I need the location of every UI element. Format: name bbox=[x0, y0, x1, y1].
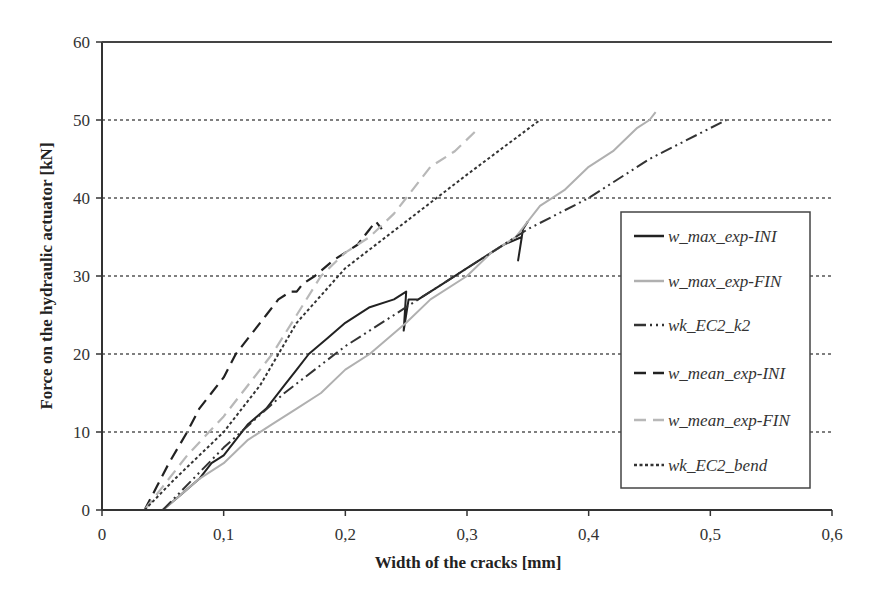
y-tick-label: 10 bbox=[73, 423, 90, 442]
legend-label: wk_EC2_k2 bbox=[668, 316, 751, 335]
y-axis-title: Force on the hydraulic actuator [kN] bbox=[37, 142, 56, 409]
chart-canvas: 010203040506000,10,20,30,40,50,6 Width o… bbox=[0, 0, 882, 602]
y-tick-label: 20 bbox=[73, 345, 90, 364]
x-axis-title: Width of the cracks [mm] bbox=[375, 553, 562, 572]
series-line bbox=[163, 112, 656, 510]
y-tick-label: 50 bbox=[73, 111, 90, 130]
legend-label: w_mean_exp-FIN bbox=[668, 411, 791, 430]
x-tick-label: 0,3 bbox=[456, 525, 477, 544]
legend-label: w_mean_exp-INI bbox=[668, 364, 786, 383]
series-line bbox=[145, 221, 382, 510]
x-tick-label: 0 bbox=[98, 525, 107, 544]
legend-label: w_max_exp-FIN bbox=[668, 272, 783, 291]
y-tick-label: 40 bbox=[73, 189, 90, 208]
series-line bbox=[145, 128, 480, 510]
legend-label: w_max_exp-INI bbox=[668, 227, 778, 246]
x-tick-label: 0,4 bbox=[578, 525, 600, 544]
x-tick-label: 0,5 bbox=[700, 525, 721, 544]
legend: w_max_exp-INIw_max_exp-FINwk_EC2_k2w_mea… bbox=[621, 212, 810, 488]
y-tick-label: 0 bbox=[82, 501, 91, 520]
y-tick-label: 30 bbox=[73, 267, 90, 286]
series-line bbox=[145, 120, 540, 510]
legend-label: wk_EC2_bend bbox=[668, 456, 768, 475]
y-tick-label: 60 bbox=[73, 33, 90, 52]
x-tick-label: 0,6 bbox=[821, 525, 842, 544]
legend-box bbox=[621, 212, 810, 488]
x-tick-label: 0,1 bbox=[213, 525, 234, 544]
x-tick-label: 0,2 bbox=[335, 525, 356, 544]
